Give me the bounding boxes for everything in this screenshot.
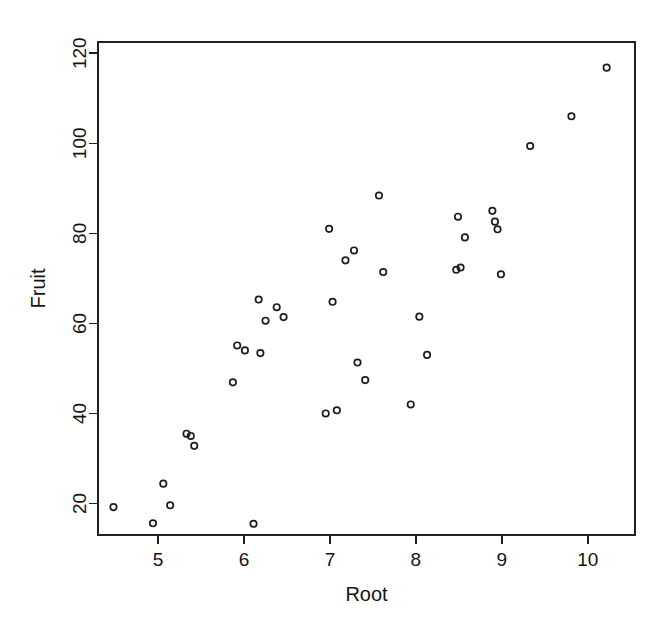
x-tick-label: 9 [497, 549, 508, 570]
data-point [408, 401, 414, 407]
data-point [326, 226, 332, 232]
y-tick-label: 100 [70, 127, 91, 159]
data-point [527, 143, 533, 149]
data-point [322, 410, 328, 416]
x-tick-label: 7 [325, 549, 336, 570]
y-tick-label: 20 [70, 493, 91, 514]
data-point [342, 257, 348, 263]
plot-frame [98, 42, 635, 535]
x-tick-label: 6 [239, 549, 250, 570]
data-point [603, 64, 609, 70]
data-point [416, 313, 422, 319]
data-point [568, 113, 574, 119]
data-point [150, 520, 156, 526]
y-tick-label: 80 [70, 223, 91, 244]
data-point [498, 271, 504, 277]
data-point [380, 269, 386, 275]
data-point [351, 247, 357, 253]
data-point [362, 377, 368, 383]
data-point [462, 234, 468, 240]
data-point [262, 317, 268, 323]
x-axis-ticks [158, 535, 588, 544]
data-point [354, 359, 360, 365]
data-point [494, 226, 500, 232]
y-axis-title: Fruit [27, 268, 49, 308]
x-tick-label: 5 [153, 549, 164, 570]
data-point [489, 208, 495, 214]
x-axis-title: Root [345, 583, 388, 605]
data-point-series [110, 64, 610, 526]
data-point [257, 350, 263, 356]
data-point [424, 352, 430, 358]
data-point [160, 480, 166, 486]
x-tick-label: 8 [411, 549, 422, 570]
data-point [376, 192, 382, 198]
chart-canvas: 5678910 20406080100120 Root Fruit [0, 0, 667, 630]
y-tick-label: 120 [70, 37, 91, 69]
data-point [250, 521, 256, 527]
y-tick-label: 40 [70, 403, 91, 424]
data-point [167, 502, 173, 508]
y-axis-ticks [89, 53, 98, 503]
data-point [242, 347, 248, 353]
data-point [334, 407, 340, 413]
data-point [492, 218, 498, 224]
data-point [191, 443, 197, 449]
data-point [274, 304, 280, 310]
y-tick-label: 60 [70, 313, 91, 334]
scatter-plot-figure: 5678910 20406080100120 Root Fruit [0, 0, 667, 630]
data-point [230, 379, 236, 385]
data-point [255, 296, 261, 302]
x-axis-tick-labels: 5678910 [153, 549, 598, 570]
y-axis-tick-labels: 20406080100120 [70, 37, 91, 514]
plot-box-border [98, 42, 635, 535]
data-point [329, 299, 335, 305]
x-tick-label: 10 [577, 549, 598, 570]
data-point [455, 213, 461, 219]
data-point [280, 314, 286, 320]
data-point [234, 342, 240, 348]
data-point [110, 504, 116, 510]
